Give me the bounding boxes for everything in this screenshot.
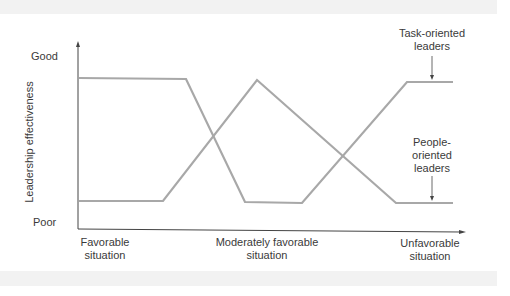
legend-task-line2: leaders	[392, 40, 472, 53]
arrow-down-icon	[430, 75, 434, 80]
legend-task-oriented: Task-oriented leaders	[392, 27, 472, 53]
x-tick-favorable-line1: Favorable	[70, 236, 140, 249]
people-annotation-arrow	[430, 176, 434, 201]
legend-people-oriented: People- oriented leaders	[392, 136, 472, 175]
y-tick-good: Good	[31, 50, 58, 63]
x-tick-unfavorable-line1: Unfavorable	[385, 237, 475, 250]
x-tick-unfavorable-line2: situation	[385, 250, 475, 263]
arrow-down-icon	[430, 196, 434, 201]
x-tick-unfavorable: Unfavorable situation	[385, 237, 475, 263]
x-tick-favorable: Favorable situation	[70, 236, 140, 262]
x-axis	[78, 229, 466, 234]
x-tick-moderate-line2: situation	[202, 249, 332, 262]
x-axis-arrow-icon	[459, 230, 466, 234]
legend-people-line1: People-	[392, 136, 472, 149]
legend-task-line1: Task-oriented	[392, 27, 472, 40]
y-axis-arrow-icon	[76, 41, 80, 47]
task-annotation-arrow	[430, 56, 434, 80]
x-tick-moderate: Moderately favorable situation	[202, 236, 332, 262]
y-tick-poor: Poor	[33, 216, 56, 229]
x-tick-favorable-line2: situation	[70, 249, 140, 262]
legend-people-line2: oriented	[392, 149, 472, 162]
legend-people-line3: leaders	[392, 162, 472, 175]
y-axis-title: Leadership effectiveness	[23, 81, 35, 203]
x-tick-moderate-line1: Moderately favorable	[202, 236, 332, 249]
